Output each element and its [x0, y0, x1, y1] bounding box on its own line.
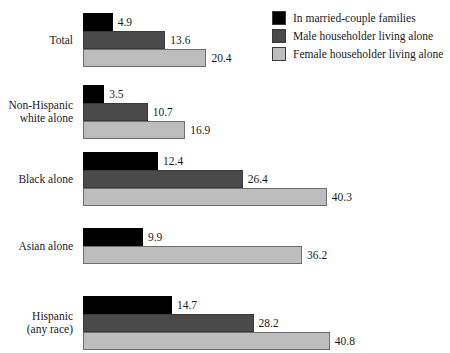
- bar-value-label: 13.6: [165, 34, 190, 46]
- bar-value-label: 3.5: [104, 88, 123, 100]
- bar-value-label: 12.4: [158, 155, 183, 167]
- bar: [83, 228, 143, 246]
- bar-value-label: 28.2: [254, 317, 279, 329]
- bar: [83, 152, 158, 170]
- bar-value-label: 9.9: [143, 231, 162, 243]
- bar-group: Asian alone9.936.2: [0, 228, 450, 264]
- bar-value-label: 4.9: [113, 16, 132, 28]
- bar: [83, 170, 243, 188]
- bar-group: Black alone12.426.440.3: [0, 152, 450, 206]
- bar-value-label: 16.9: [185, 124, 210, 136]
- bar: [83, 188, 327, 206]
- bar: [83, 296, 172, 314]
- bar: [83, 103, 148, 121]
- bar: [83, 332, 330, 350]
- bar: [83, 85, 104, 103]
- bar-group: Total4.913.620.4: [0, 13, 450, 67]
- category-label: Asian alone: [0, 240, 73, 253]
- category-label: Hispanic (any race): [0, 310, 73, 336]
- category-label: Non-Hispanic white alone: [0, 99, 73, 125]
- bar: [83, 49, 206, 67]
- category-label: Total: [0, 34, 73, 47]
- bar-value-label: 20.4: [206, 52, 231, 64]
- bar-value-label: 40.8: [330, 335, 355, 347]
- bar: [83, 314, 254, 332]
- bar-group: Hispanic (any race)14.728.240.8: [0, 296, 450, 350]
- bar-value-label: 14.7: [172, 299, 197, 311]
- bar: [83, 246, 302, 264]
- bar-value-label: 26.4: [243, 173, 268, 185]
- bar-chart: In married-couple familiesMale household…: [0, 0, 450, 353]
- bar-value-label: 40.3: [327, 191, 352, 203]
- bar-group: Non-Hispanic white alone3.510.716.9: [0, 85, 450, 139]
- bar-value-label: 36.2: [302, 249, 327, 261]
- bar: [83, 13, 113, 31]
- bar-value-label: 10.7: [148, 106, 173, 118]
- bar: [83, 31, 165, 49]
- category-label: Black alone: [0, 173, 73, 186]
- bar: [83, 121, 185, 139]
